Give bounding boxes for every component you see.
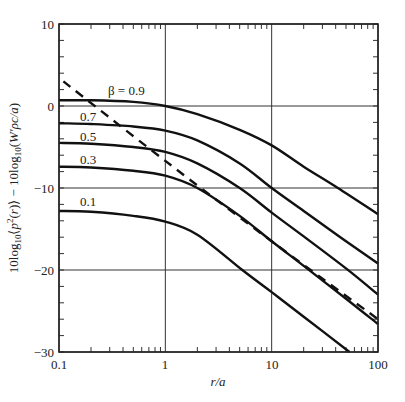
curve-label-beta-0.5: 0.5 (80, 129, 96, 144)
curve-label-beta-0.9: β = 0.9 (108, 83, 145, 98)
curve-label-beta-0.3: 0.3 (80, 152, 96, 167)
curve-label-beta-0.1: 0.1 (80, 194, 96, 209)
curve-label-beta-0.7: 0.7 (80, 109, 97, 124)
chart: 0.1 1 10 100 10 0 −10 −20 −30 r/a 10log1… (0, 0, 405, 402)
y-tick-label: −10 (34, 181, 54, 196)
y-tick-label: 10 (41, 17, 54, 32)
x-axis-title: r/a (210, 374, 226, 389)
curve--0.9 (59, 100, 378, 214)
x-tick-label: 1 (162, 357, 169, 372)
y-tick-label: −20 (34, 263, 54, 278)
y-axis-title: 10log10⟨p2(r)⟩ − 10log10(W′ρc/a) (5, 103, 23, 273)
data-curves (59, 81, 378, 352)
curve--0.3 (59, 167, 378, 324)
y-tick-label: −30 (34, 345, 54, 360)
curve--0.1 (59, 211, 350, 352)
curve--0.5 (59, 143, 378, 295)
y-tick-label: 0 (48, 99, 55, 114)
grid-lines (59, 24, 378, 352)
x-tick-label: 100 (368, 357, 388, 372)
curve-far-field-asymptote (63, 81, 378, 319)
x-tick-label: 10 (266, 357, 279, 372)
